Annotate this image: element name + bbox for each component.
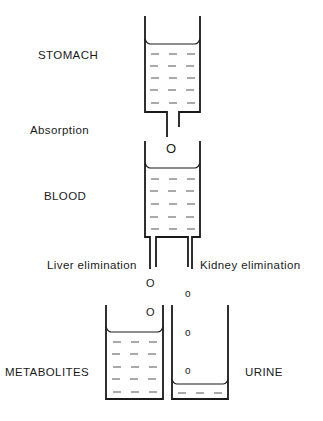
stomach-label: STOMACH	[38, 49, 98, 61]
metabolites-container	[106, 306, 163, 399]
blood-container	[145, 142, 200, 268]
kidney-elimination-label: Kidney elimination	[200, 259, 301, 271]
liver-particle-1: O	[146, 277, 155, 289]
stomach-container	[145, 17, 200, 136]
absorption-particle: O	[166, 141, 176, 156]
pharmacokinetics-diagram: STOMACH Absorption O BLOOD Liver elimina…	[0, 0, 323, 421]
liver-particle-2: O	[146, 306, 155, 318]
kidney-particle-1: o	[185, 288, 191, 299]
absorption-label: Absorption	[30, 124, 89, 136]
metabolites-label: METABOLITES	[5, 366, 89, 378]
urine-label: URINE	[245, 366, 283, 378]
kidney-particle-3: o	[185, 365, 191, 376]
blood-liquid-dashes	[150, 179, 195, 229]
blood-label: BLOOD	[44, 190, 86, 202]
urine-container	[172, 306, 228, 399]
liver-elimination-label: Liver elimination	[47, 259, 137, 271]
stomach-liquid-dashes	[150, 54, 195, 103]
metabolites-liquid-dashes	[112, 342, 157, 392]
kidney-particle-2: o	[185, 327, 191, 338]
